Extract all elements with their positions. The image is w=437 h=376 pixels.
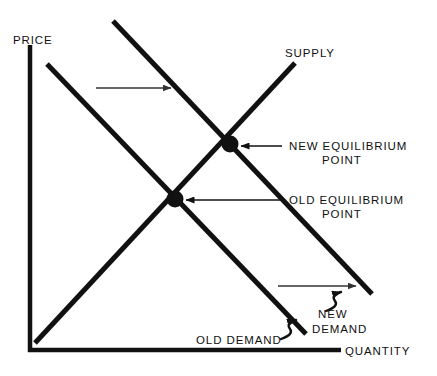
- leader-lines-group: [186, 146, 282, 200]
- shift-arrows-group: [96, 88, 356, 286]
- old-equilibrium-label-line1: OLD EQUILIBRIUM: [289, 194, 404, 206]
- old-equilibrium-label-line2: POINT: [322, 208, 362, 220]
- x-axis-label-quantity: QUANTITY: [345, 345, 410, 357]
- old-demand-label: OLD DEMAND: [196, 334, 282, 346]
- new-equilibrium-dot: [222, 136, 239, 153]
- text-labels-group: PRICE QUANTITY SUPPLY NEW EQUILIBRIUM PO…: [13, 34, 410, 357]
- supply-demand-diagram: PRICE QUANTITY SUPPLY NEW EQUILIBRIUM PO…: [0, 0, 437, 376]
- new-demand-label-line1: NEW: [318, 308, 348, 320]
- y-axis-label-price: PRICE: [13, 34, 53, 46]
- diagram-canvas: PRICE QUANTITY SUPPLY NEW EQUILIBRIUM PO…: [0, 0, 437, 376]
- new-demand-label-line2: DEMAND: [312, 323, 367, 335]
- new-equilibrium-label-line1: NEW EQUILIBRIUM: [289, 140, 407, 152]
- supply-curve: [35, 63, 295, 343]
- new-equilibrium-label-line2: POINT: [322, 154, 362, 166]
- curves-group: [35, 21, 372, 343]
- equilibrium-points-group: [167, 136, 239, 208]
- supply-curve-label: SUPPLY: [285, 47, 335, 59]
- old-equilibrium-dot: [167, 191, 184, 208]
